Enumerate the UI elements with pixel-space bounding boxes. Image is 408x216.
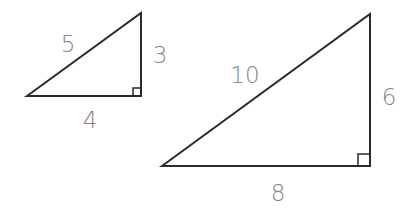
large-horizontal-leg-label: 8 xyxy=(271,180,286,206)
small-triangle-outline xyxy=(27,13,141,96)
small-horizontal-leg-label: 4 xyxy=(83,107,98,133)
large-right-angle-marker xyxy=(358,154,370,166)
small-triangle: 5 3 4 xyxy=(27,13,167,133)
small-right-angle-marker xyxy=(133,88,141,96)
large-vertical-leg-label: 6 xyxy=(382,84,397,110)
small-hypotenuse-label: 5 xyxy=(61,31,76,57)
small-vertical-leg-label: 3 xyxy=(153,42,168,68)
large-triangle: 10 6 8 xyxy=(162,14,396,206)
diagram-canvas: 5 3 4 10 6 8 xyxy=(0,0,408,216)
large-hypotenuse-label: 10 xyxy=(230,62,259,88)
large-triangle-outline xyxy=(162,14,370,166)
